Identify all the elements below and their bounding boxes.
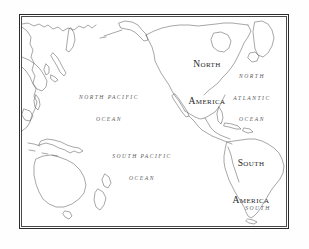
borneo-path [22,109,33,121]
tierra-del-fuego-path [246,219,257,224]
asia-east-coast-path [22,23,96,31]
map-plate: NORTH PACIFIC OCEAN SOUTH PACIFIC OCEAN … [21,16,287,227]
south-america-mainland-path [224,139,284,218]
north-america-north-coast-path [146,23,248,35]
korea-path [44,64,49,75]
australia-path [34,155,86,207]
new-guinea-path [39,139,83,153]
coastline-layer [22,17,287,227]
cuba-path [224,123,241,129]
central-america-path [189,116,232,144]
kamchatka-path [66,28,75,52]
tasmania-path [63,211,72,219]
florida-path [217,107,223,124]
central-america-caribbean-path [205,118,230,139]
siberia-coast-path [22,27,37,131]
hispaniola-path [243,128,253,133]
north-america-east-coast-path [204,25,251,95]
new-zealand-south-path [94,189,106,210]
map-figure: NORTH PACIFIC OCEAN SOUTH PACIFIC OCEAN … [0,0,309,249]
japan-south-island-path [51,75,58,82]
japan-path [51,53,66,76]
aleutians-path [100,30,122,38]
baja-california-path [172,94,189,117]
alaska-path [119,21,148,41]
china-coast-path [22,57,47,91]
hudson-bay-path [211,32,231,52]
new-zealand-north-path [102,174,111,188]
greenland-southwest-path [253,21,274,57]
south-america-andes-hint-path [228,147,239,182]
